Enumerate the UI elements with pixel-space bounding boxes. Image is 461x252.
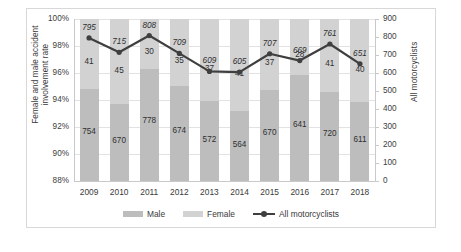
plot-area: 88%90%92%94%96%98%100%010020030040050060… xyxy=(74,19,375,181)
y-axis-right-tick-label: 100 xyxy=(383,158,417,167)
legend-label: Female xyxy=(207,209,235,219)
y-axis-left-tick-label: 92% xyxy=(35,122,69,131)
line-marker-point[interactable] xyxy=(327,41,332,46)
data-label-all-motorcyclists: 761 xyxy=(312,29,348,38)
y-axis-right-tick-label: 0 xyxy=(383,176,417,185)
line-marker-point[interactable] xyxy=(117,50,122,55)
data-label-all-motorcyclists: 715 xyxy=(101,37,137,46)
line-marker-point[interactable] xyxy=(86,35,91,40)
x-axis-category-label: 2018 xyxy=(342,187,378,197)
line-marker-point[interactable] xyxy=(177,51,182,56)
y-axis-right-tick-label: 500 xyxy=(383,86,417,95)
line-marker-point[interactable] xyxy=(237,70,242,75)
y-axis-left-tick-label: 88% xyxy=(35,176,69,185)
legend-item-male[interactable]: Male xyxy=(123,209,165,219)
line-marker-point[interactable] xyxy=(267,51,272,56)
data-label-all-motorcyclists: 669 xyxy=(282,46,318,55)
square-swatch-icon xyxy=(183,211,203,217)
y-axis-left-tick-label: 90% xyxy=(35,149,69,158)
line-marker-point[interactable] xyxy=(147,33,152,38)
y-axis-right-tick-label: 300 xyxy=(383,122,417,131)
data-label-all-motorcyclists: 605 xyxy=(222,57,258,66)
y-axis-left-tick-label: 98% xyxy=(35,41,69,50)
data-label-all-motorcyclists: 651 xyxy=(342,49,378,58)
data-label-all-motorcyclists: 795 xyxy=(71,23,107,32)
square-swatch-icon xyxy=(123,211,143,217)
chart-legend: Male Female All motorcyclists xyxy=(27,209,435,219)
legend-item-all-motorcyclists[interactable]: All motorcyclists xyxy=(253,209,339,219)
line-marker-point[interactable] xyxy=(207,69,212,74)
y-axis-right-tick-label: 400 xyxy=(383,104,417,113)
data-label-all-motorcyclists: 808 xyxy=(131,21,167,30)
legend-item-female[interactable]: Female xyxy=(183,209,235,219)
data-label-all-motorcyclists: 709 xyxy=(161,38,197,47)
line-marker-point[interactable] xyxy=(357,61,362,66)
y-axis-right-tick-label: 700 xyxy=(383,50,417,59)
legend-label: Male xyxy=(147,209,165,219)
y-axis-right-line xyxy=(375,19,376,181)
line-marker-icon xyxy=(253,209,275,219)
chart-figure: Female and male accident involvement rat… xyxy=(26,8,436,228)
legend-label: All motorcyclists xyxy=(279,209,339,219)
y-axis-right-tick-label: 600 xyxy=(383,68,417,77)
y-axis-right-tick-label: 900 xyxy=(383,14,417,23)
x-axis-line xyxy=(74,181,376,182)
y-axis-right-tick-label: 200 xyxy=(383,140,417,149)
y-axis-right-tick-label: 800 xyxy=(383,32,417,41)
y-axis-left-tick-label: 100% xyxy=(35,14,69,23)
line-marker-point[interactable] xyxy=(297,58,302,63)
y-axis-left-tick-label: 94% xyxy=(35,95,69,104)
y-axis-left-tick-label: 96% xyxy=(35,68,69,77)
